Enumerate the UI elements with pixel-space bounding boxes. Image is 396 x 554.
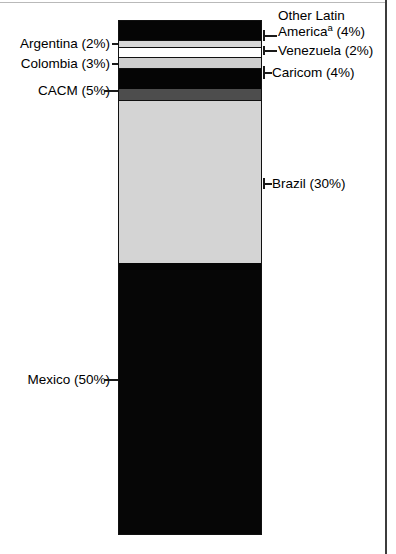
leader-line-venezuela [263,50,277,52]
bar-segment-colombia [119,58,261,69]
bar-segment-cacm [119,89,261,101]
leader-line-colombia [112,63,118,65]
leader-tick-venezuela [263,46,265,55]
stacked-bar [118,20,262,535]
label-other-latin-america-line2: America [278,24,328,39]
bar-segment-caricom [119,69,261,89]
leader-tick-other-latin-america [263,30,265,41]
label-other-latin-america-value: (4%) [333,24,365,39]
leader-line-other-latin-america [263,35,277,37]
label-venezuela: Venezuela (2%) [278,43,394,59]
label-other-latin-america: Other Latin Americaa (4%) [278,8,394,39]
bar-segment-argentina [119,40,261,48]
leader-tick-caricom [263,66,265,79]
bar-segment-other-latin-america [119,21,261,40]
label-cacm: CACM (5%) [4,83,110,99]
leader-line-cacm [104,90,118,92]
bar-segment-venezuela [119,48,261,58]
label-brazil: Brazil (30%) [272,176,394,192]
figure-frame-right-rule [385,0,387,554]
figure-frame-top-rule [0,2,386,3]
label-colombia: Colombia (3%) [4,56,110,72]
figure-canvas: Other Latin Americaa (4%) Venezuela (2%)… [0,0,396,554]
label-caricom: Caricom (4%) [272,65,394,81]
bar-segment-mexico [119,263,261,534]
leader-tick-brazil [263,178,265,189]
leader-line-mexico [104,379,118,381]
label-mexico: Mexico (50%) [4,372,110,388]
leader-line-argentina [112,43,118,45]
label-argentina: Argentina (2%) [4,36,110,52]
label-other-latin-america-line1: Other Latin [278,8,345,23]
bar-segment-brazil [119,101,261,263]
